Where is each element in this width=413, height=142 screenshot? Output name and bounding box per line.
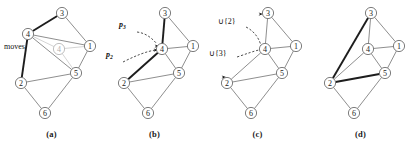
caption-c: (c) [206,129,309,139]
edge-4-1 [168,47,188,49]
ghost-node-4: 4 [53,43,64,54]
svg-text:6: 6 [249,109,253,118]
panel-c-graph: 341526 ∪{2}∪{3} [206,0,309,124]
svg-text:4: 4 [57,45,61,54]
svg-text:1: 1 [294,42,298,51]
node-1: 1 [187,40,198,51]
edge-5-6 [48,77,72,108]
node-5: 5 [276,67,287,78]
svg-text:2: 2 [19,79,23,88]
union-2-pointer [246,27,261,46]
p3-pointer [137,32,157,44]
edge-5-6 [151,77,175,108]
edge-2-6 [230,87,247,108]
edge-4-2 [231,53,261,80]
edge-4-2 [128,53,158,80]
svg-text:4: 4 [160,45,164,54]
svg-text:3: 3 [163,9,167,18]
edge-2-5 [336,74,380,82]
edge-3-1 [66,17,87,41]
annotation-p3: p3 [118,20,126,30]
svg-text:6: 6 [352,109,356,118]
edge-4-5 [32,38,71,70]
edge-2-5 [27,74,71,82]
panel-c-annotations: ∪{2}∪{3} [209,17,236,58]
panel-c: 341526 ∪{2}∪{3} (c) [206,0,309,142]
svg-text:4: 4 [263,45,267,54]
caption-b: (b) [103,129,206,139]
svg-text:4: 4 [366,45,370,54]
edge-2-6 [333,87,350,108]
node-4: 4 [22,28,33,39]
svg-text:3: 3 [369,9,373,18]
edge-5-6 [357,77,381,108]
edge-4-1 [374,47,394,49]
node-4: 4 [156,43,167,54]
svg-text:6: 6 [43,109,47,118]
node-1: 1 [393,40,404,51]
panel-c-edges [230,17,293,108]
annotation-union-3: ∪{3} [209,49,227,58]
annotation-union-2: ∪{2} [218,17,236,26]
panel-b-annotations: p3p2 [105,20,126,60]
svg-text:2: 2 [122,79,126,88]
panel-d: 341526 (d) [309,0,412,142]
moves-annotation: moves [4,42,25,51]
panel-d-graph: 341526 [309,0,412,124]
p2-pointer [123,50,156,62]
edge-3-1 [169,17,190,41]
svg-text:5: 5 [177,69,181,78]
edge-3-1 [375,17,396,41]
node-6: 6 [39,107,50,118]
edge-3-1 [272,17,293,41]
edge-1-5 [79,51,88,68]
edge-2-6 [127,87,144,108]
caption-d: (d) [309,129,412,139]
svg-text:3: 3 [60,9,64,18]
edge-4-5 [165,54,176,69]
edge-g4-1 [65,47,85,49]
edge-2-5 [130,74,174,82]
panel-a-graph: 3415264 [0,0,103,124]
edge-1-5 [182,51,191,68]
node-2: 2 [118,77,129,88]
edge-2-6 [24,87,41,108]
panel-a-nodes: 3415264 [15,7,95,118]
svg-text:1: 1 [88,42,92,51]
svg-text:4: 4 [26,30,30,39]
node-5: 5 [70,67,81,78]
node-3: 3 [56,7,67,18]
edge-3-4 [368,19,370,44]
figure-graph-sequence: 3415264 moves (a) 341526 p3p2 (b) 341526… [0,0,413,142]
svg-text:5: 5 [280,69,284,78]
union-3-pointer [237,50,259,57]
panel-b-edges [127,17,190,108]
edge-3-4 [162,19,164,44]
node-2: 2 [324,77,335,88]
node-4: 4 [362,43,373,54]
node-5: 5 [379,67,390,78]
node-2: 2 [221,77,232,88]
edge-4-5 [268,54,279,69]
edge-1-5 [285,51,294,68]
edge-4-5 [371,54,382,69]
node-6: 6 [348,107,359,118]
node-2: 2 [15,77,26,88]
svg-text:6: 6 [146,109,150,118]
svg-text:2: 2 [225,79,229,88]
edge-2-5 [233,74,277,82]
node-5: 5 [173,67,184,78]
panel-a: 3415264 moves (a) [0,0,103,142]
edge-4-2 [334,53,364,80]
edge-4-1 [271,47,291,49]
edge-4-3 [33,16,57,31]
node-6: 6 [142,107,153,118]
panel-b: 341526 p3p2 (b) [103,0,206,142]
node-4: 4 [259,43,270,54]
svg-text:1: 1 [397,42,401,51]
edge-5-6 [254,77,278,108]
svg-text:2: 2 [328,79,332,88]
svg-text:5: 5 [74,69,78,78]
edge-3-4 [265,19,267,44]
node-1: 1 [290,40,301,51]
